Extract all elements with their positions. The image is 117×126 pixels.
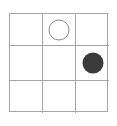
grid-cell-r1c1[interactable] — [10, 14, 43, 46]
screenshot-canvas — [0, 0, 117, 126]
grid-cell-r1c3[interactable] — [76, 14, 109, 46]
grid-board — [9, 13, 108, 112]
grid-cell-r2c3[interactable] — [76, 46, 109, 81]
grid-cell-r3c2[interactable] — [43, 81, 76, 113]
grid-cell-r1c2[interactable] — [43, 14, 76, 46]
grid-cell-r3c3[interactable] — [76, 81, 109, 113]
open-circle-icon[interactable] — [49, 19, 70, 40]
grid-cell-r2c2[interactable] — [43, 46, 76, 81]
grid-cell-r3c1[interactable] — [10, 81, 43, 113]
filled-circle-icon[interactable] — [82, 53, 103, 74]
grid-cell-r2c1[interactable] — [10, 46, 43, 81]
